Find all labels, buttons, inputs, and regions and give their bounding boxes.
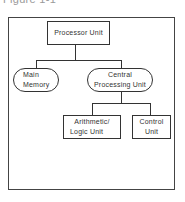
cpu-node: Central Processing Unit xyxy=(87,68,153,92)
connector-to-alu xyxy=(92,103,93,115)
processor-unit-node: Processor Unit xyxy=(47,21,110,45)
control-unit-label-line2: Unit xyxy=(145,127,158,137)
processor-unit-label: Processor Unit xyxy=(54,28,103,38)
alu-label-line2: Logic Unit xyxy=(64,127,103,137)
cpu-label-line2: Processing Unit xyxy=(94,80,146,90)
connector-to-cpu xyxy=(121,60,122,68)
alu-node: Arithmetic/ Logic Unit xyxy=(63,115,121,139)
connector-cpu-horizontal xyxy=(92,103,151,104)
main-memory-node: Main Memory xyxy=(13,68,59,92)
cpu-label-line1: Central xyxy=(108,70,132,80)
connector-to-control-unit xyxy=(150,103,151,115)
connector-root-horizontal xyxy=(36,60,122,61)
connector-cpu-vertical xyxy=(121,92,122,103)
connector-root-vertical xyxy=(75,45,76,60)
control-unit-node: Control Unit xyxy=(132,115,171,139)
connector-to-main-memory xyxy=(36,60,37,68)
figure-title: Figure 1-1 xyxy=(3,0,56,5)
control-unit-label-line1: Control xyxy=(140,117,164,127)
alu-label-line1: Arithmetic/ xyxy=(74,117,109,127)
main-memory-label-line1: Main xyxy=(23,70,39,80)
main-memory-label-line2: Memory xyxy=(23,80,49,90)
